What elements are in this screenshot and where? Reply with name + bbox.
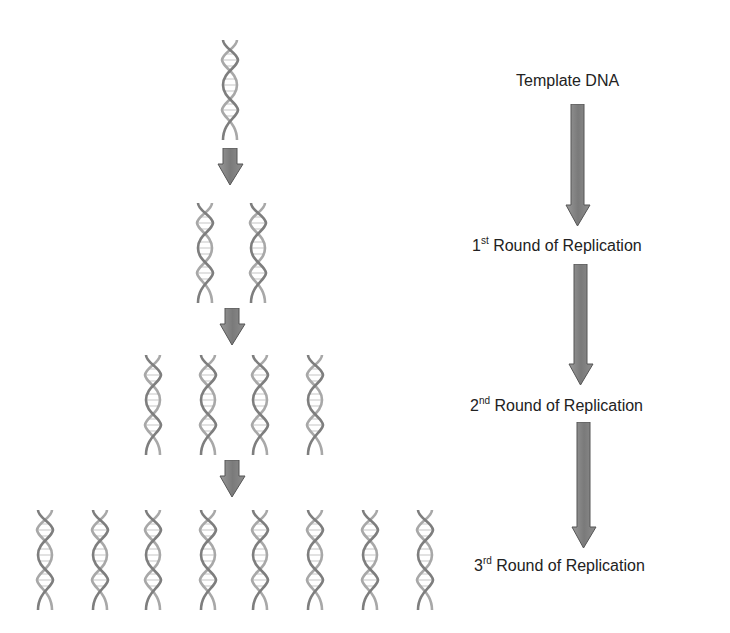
dna-helix-icon xyxy=(141,355,165,455)
ordinal-number: 1 xyxy=(472,237,481,254)
ordinal-suffix: rd xyxy=(483,555,492,566)
long-down-arrow-2 xyxy=(568,264,594,386)
small-down-arrow-2 xyxy=(219,308,246,346)
long-down-arrow-1 xyxy=(565,104,591,227)
label-text: Round of Replication xyxy=(492,557,645,574)
small-down-arrow-3 xyxy=(219,460,246,498)
dna-helix-icon xyxy=(33,510,57,610)
ordinal-number: 3 xyxy=(474,557,483,574)
label-round-1: 1st Round of Replication xyxy=(472,238,642,254)
dna-helix-icon xyxy=(413,510,437,610)
label-round-3: 3rd Round of Replication xyxy=(474,558,645,574)
dna-helix-icon xyxy=(248,355,272,455)
label-text: Round of Replication xyxy=(490,397,643,414)
ordinal-suffix: st xyxy=(481,235,489,246)
long-down-arrow-3 xyxy=(571,422,597,549)
dna-helix-icon xyxy=(88,510,112,610)
ordinal-suffix: nd xyxy=(479,395,490,406)
label-template-dna: Template DNA xyxy=(516,73,619,89)
dna-helix-icon xyxy=(303,355,327,455)
dna-helix-icon xyxy=(196,355,220,455)
dna-helix-icon xyxy=(193,203,217,303)
dna-helix-icon xyxy=(248,510,272,610)
ordinal-number: 2 xyxy=(470,397,479,414)
label-text: Round of Replication xyxy=(489,237,642,254)
dna-helix-icon xyxy=(141,510,165,610)
small-down-arrow-1 xyxy=(217,148,244,186)
label-text: Template DNA xyxy=(516,72,619,89)
dna-helix-icon xyxy=(218,40,242,140)
label-round-2: 2nd Round of Replication xyxy=(470,398,643,414)
dna-helix-icon xyxy=(246,203,270,303)
dna-helix-icon xyxy=(196,510,220,610)
dna-helix-icon xyxy=(358,510,382,610)
dna-helix-icon xyxy=(303,510,327,610)
